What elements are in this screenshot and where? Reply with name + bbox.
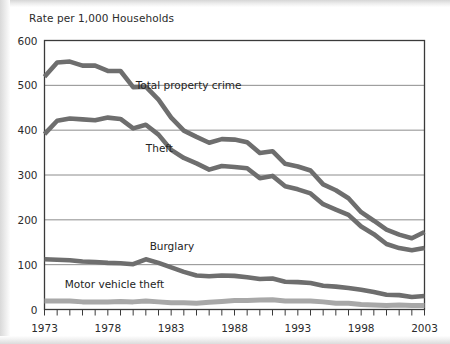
series-label-burglary: Burglary — [150, 240, 195, 252]
series-label-motor-vehicle-theft: Motor vehicle theft — [65, 278, 164, 290]
series-label-total-property-crime: Total property crime — [135, 79, 242, 91]
y-tick-label: 200 — [17, 214, 37, 226]
x-tick-label: 1988 — [221, 322, 248, 334]
x-tick-label: 1983 — [158, 322, 185, 334]
y-tick-label: 500 — [17, 79, 37, 91]
y-tick-label: 400 — [17, 124, 37, 136]
x-axis-tick-labels: 1973197819831988199319982003 — [31, 322, 438, 334]
x-axis-ticks — [45, 310, 425, 316]
data-series-layer — [45, 62, 425, 306]
gridlines-group — [45, 85, 425, 264]
x-tick-label: 2003 — [411, 322, 438, 334]
x-tick-label: 1998 — [348, 322, 375, 334]
chart-figure: Rate per 1,000 Households 01002003004005… — [0, 0, 450, 344]
series-line-motor-vehicle-theft — [45, 300, 425, 306]
y-tick-label: 300 — [17, 169, 37, 181]
y-tick-label: 0 — [31, 304, 38, 316]
line-chart-plot: 0100200300400500600 19731978198319881993… — [0, 0, 450, 344]
y-tick-label: 100 — [17, 259, 37, 271]
y-tick-label: 600 — [17, 35, 37, 47]
series-annotations-layer: Total property crimeTheftBurglaryMotor v… — [65, 79, 242, 290]
x-tick-label: 1973 — [31, 322, 58, 334]
x-tick-label: 1978 — [94, 322, 121, 334]
series-label-theft: Theft — [145, 142, 173, 154]
x-tick-label: 1993 — [284, 322, 311, 334]
y-axis-tick-labels: 0100200300400500600 — [17, 35, 37, 316]
